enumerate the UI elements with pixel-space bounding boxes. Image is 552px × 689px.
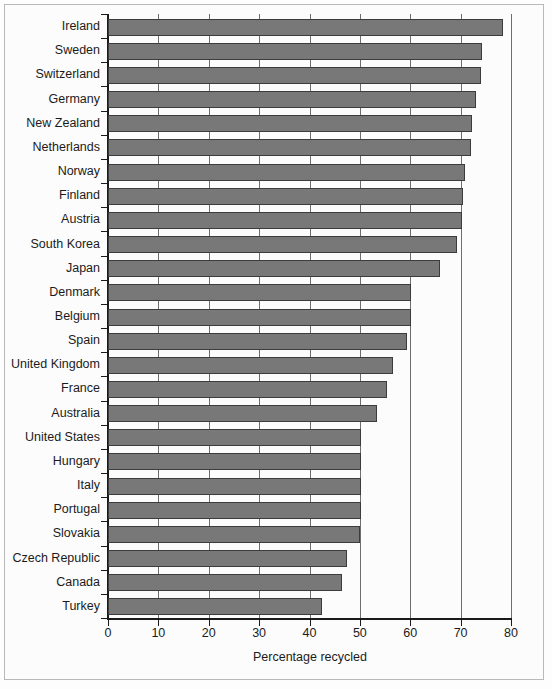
bar[interactable] <box>108 381 387 398</box>
bar-row: United Kingdom <box>0 357 552 374</box>
x-tick-label: 50 <box>340 626 380 640</box>
bar[interactable] <box>108 526 360 543</box>
bar[interactable] <box>108 405 377 422</box>
y-tick-mark <box>101 376 108 377</box>
bar[interactable] <box>108 212 462 229</box>
y-tick-mark <box>101 256 108 257</box>
category-label: Hungary <box>0 454 100 468</box>
x-tick-label: 40 <box>290 626 330 640</box>
bar[interactable] <box>108 260 440 277</box>
y-tick-mark <box>101 159 108 160</box>
bar[interactable] <box>108 502 361 519</box>
category-label: Sweden <box>0 43 100 57</box>
y-tick-mark <box>101 207 108 208</box>
bar[interactable] <box>108 115 472 132</box>
y-tick-mark <box>101 280 108 281</box>
bar[interactable] <box>108 309 411 326</box>
y-tick-mark <box>101 497 108 498</box>
bar[interactable] <box>108 478 361 495</box>
category-label: Slovakia <box>0 526 100 540</box>
bar[interactable] <box>108 188 463 205</box>
y-tick-mark <box>101 135 108 136</box>
bar-row: Finland <box>0 188 552 205</box>
category-label: Japan <box>0 261 100 275</box>
y-tick-mark <box>101 401 108 402</box>
bar[interactable] <box>108 453 361 470</box>
y-tick-mark <box>101 473 108 474</box>
category-label: Italy <box>0 478 100 492</box>
bar-row: Belgium <box>0 309 552 326</box>
y-tick-mark <box>101 38 108 39</box>
bar-row: Denmark <box>0 284 552 301</box>
bar[interactable] <box>108 429 361 446</box>
bar-row: Ireland <box>0 19 552 36</box>
y-tick-mark <box>101 183 108 184</box>
category-label: Czech Republic <box>0 551 100 565</box>
y-tick-mark <box>101 14 108 15</box>
bar[interactable] <box>108 357 393 374</box>
x-tick-label: 60 <box>390 626 430 640</box>
category-label: Denmark <box>0 285 100 299</box>
category-label: Turkey <box>0 599 100 613</box>
category-label: New Zealand <box>0 116 100 130</box>
y-tick-mark <box>101 86 108 87</box>
bar-row: Italy <box>0 478 552 495</box>
y-tick-mark <box>101 546 108 547</box>
bar[interactable] <box>108 139 471 156</box>
category-label: Ireland <box>0 19 100 33</box>
bar-row: Germany <box>0 91 552 108</box>
category-label: United Kingdom <box>0 357 100 371</box>
category-label: United States <box>0 430 100 444</box>
bar-row: Czech Republic <box>0 550 552 567</box>
bar-row: Japan <box>0 260 552 277</box>
bar-row: Slovakia <box>0 526 552 543</box>
bar-row: Netherlands <box>0 139 552 156</box>
category-label: France <box>0 381 100 395</box>
bar[interactable] <box>108 43 482 60</box>
y-tick-mark <box>101 618 108 619</box>
y-tick-mark <box>101 425 108 426</box>
y-tick-mark <box>101 111 108 112</box>
x-tick-label: 20 <box>189 626 229 640</box>
bar[interactable] <box>108 67 481 84</box>
bar-row: Australia <box>0 405 552 422</box>
bar[interactable] <box>108 550 347 567</box>
figure-container: IrelandSwedenSwitzerlandGermanyNew Zeala… <box>0 0 552 689</box>
y-tick-mark <box>101 352 108 353</box>
category-label: Germany <box>0 92 100 106</box>
bar[interactable] <box>108 574 342 591</box>
x-tick-label: 70 <box>441 626 481 640</box>
category-label: Belgium <box>0 309 100 323</box>
y-tick-mark <box>101 304 108 305</box>
bar[interactable] <box>108 164 465 181</box>
bar-row: New Zealand <box>0 115 552 132</box>
y-tick-mark <box>101 328 108 329</box>
bar[interactable] <box>108 19 503 36</box>
category-label: Spain <box>0 333 100 347</box>
category-label: Netherlands <box>0 140 100 154</box>
category-label: Norway <box>0 164 100 178</box>
bar-row: Norway <box>0 164 552 181</box>
bar-row: South Korea <box>0 236 552 253</box>
bar-row: Hungary <box>0 453 552 470</box>
bar[interactable] <box>108 284 411 301</box>
y-tick-mark <box>101 449 108 450</box>
y-tick-mark <box>101 521 108 522</box>
x-tick-label: 10 <box>138 626 178 640</box>
bar[interactable] <box>108 598 322 615</box>
bar-row: Portugal <box>0 502 552 519</box>
bar-row: Sweden <box>0 43 552 60</box>
bar[interactable] <box>108 236 457 253</box>
bar-row: United States <box>0 429 552 446</box>
category-label: Switzerland <box>0 67 100 81</box>
category-label: Austria <box>0 212 100 226</box>
bar-row: Austria <box>0 212 552 229</box>
category-label: Portugal <box>0 502 100 516</box>
bar[interactable] <box>108 333 407 350</box>
x-tick-label: 80 <box>491 626 531 640</box>
bar-row: Switzerland <box>0 67 552 84</box>
y-tick-mark <box>101 62 108 63</box>
bar[interactable] <box>108 91 476 108</box>
x-tick-label: 30 <box>239 626 279 640</box>
bar-row: Canada <box>0 574 552 591</box>
